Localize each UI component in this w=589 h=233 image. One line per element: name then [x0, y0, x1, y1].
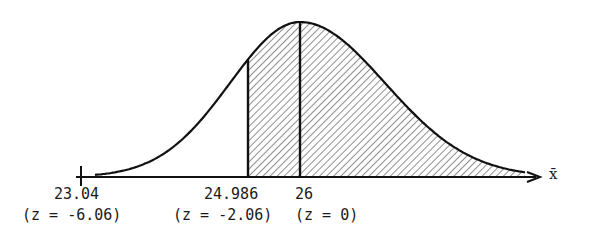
axis-label-xbar: x̄	[549, 165, 557, 183]
label-value-24-986: 24.986	[204, 185, 258, 203]
shaded-region	[95, 22, 525, 177]
label-value-23-04: 23.04	[54, 185, 99, 203]
label-z-neg2: (z = -2.06)	[173, 206, 272, 224]
label-value-26: 26	[295, 185, 313, 203]
label-z-neg6: (z = -6.06)	[22, 206, 121, 224]
label-z-0: (z = 0)	[295, 206, 358, 224]
